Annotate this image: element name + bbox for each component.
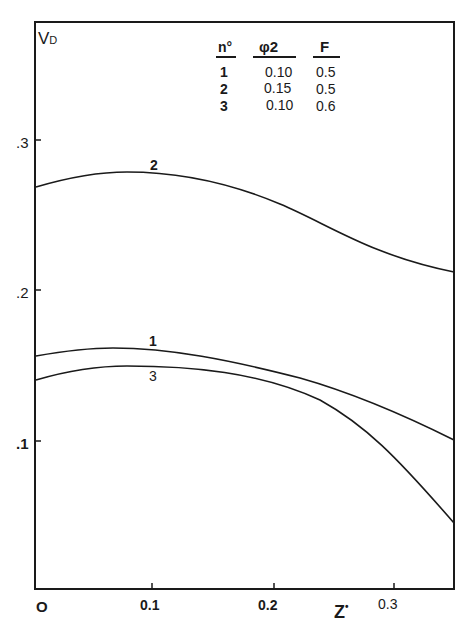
curve-2 [36,172,454,272]
curve-1 [36,348,454,440]
legend-row-phi: 0.15 [264,80,291,96]
x-axis-label-superscript: • [345,601,349,612]
y-tick-label: .1 [16,435,29,452]
x-tick-label: 0.2 [258,597,278,613]
y-axis-label-subscript: D [49,34,57,46]
legend-row-f: 0.6 [316,98,336,114]
legend-row-phi: 0.10 [265,64,292,80]
curve-3 [36,366,454,523]
legend-header-f: F [320,38,329,55]
legend: n° φ2 F 1 0.10 0.5 2 0.15 0.5 3 0.10 0.6 [216,38,340,114]
legend-row-phi: 0.10 [266,97,293,113]
legend-row-f: 0.5 [316,81,336,97]
legend-header-n: n° [218,39,232,55]
legend-row-n: 1 [220,64,228,80]
x-tick-label: 0.1 [140,597,160,613]
curve-label-3: 3 [149,368,157,384]
plot-frame [35,22,454,589]
curve-label-2: 2 [150,157,158,173]
legend-row-n: 2 [220,81,228,97]
curve-label-1: 1 [149,333,157,349]
legend-row-n: 3 [220,98,228,114]
legend-row-f: 0.5 [316,64,336,80]
y-tick-label: .3 [16,134,29,151]
legend-header-phi: φ2 [259,38,278,55]
y-axis-label: VD [38,29,57,48]
y-tick-label: .2 [16,284,29,301]
x-tick-label: O [36,598,48,615]
y-axis: .3 .2 .1 [16,134,41,452]
chart: .3 .2 .1 VD O 0.1 0.2 0.3 Z• 2 1 3 n° φ2… [0,0,473,627]
x-axis-label: Z• [334,601,349,622]
x-tick-label: 0.3 [378,596,398,612]
